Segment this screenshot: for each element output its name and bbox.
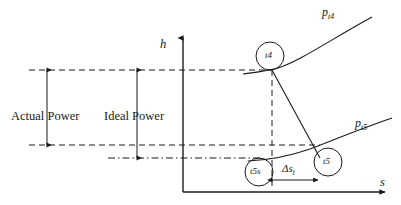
isobar-pt5-label-sub: t5 — [361, 123, 367, 132]
actual-power-label: Actual Power — [11, 110, 79, 123]
delta-s-label: Δst — [282, 163, 295, 177]
state-point-t4-label: t4 — [265, 51, 272, 60]
isobar-pt5-curve — [248, 118, 392, 161]
isobar-pt4-curve — [243, 17, 372, 74]
entropy-axis-label: s — [380, 176, 385, 189]
isobar-pt4-label-sub: t4 — [328, 12, 334, 21]
hs-diagram: Actual Power Ideal Power h s pt4 pt5 t4 … — [0, 0, 401, 205]
ideal-power-label: Ideal Power — [104, 110, 164, 123]
isobar-pt5-label: pt5 — [355, 117, 367, 132]
isobar-pt4-label: pt4 — [322, 6, 334, 21]
diagram-canvas — [0, 0, 401, 205]
enthalpy-axis-label: h — [160, 38, 166, 51]
state-point-t5s-label: t5s — [250, 167, 261, 176]
delta-s-label-base: Δs — [282, 162, 293, 174]
delta-s-label-sub: t — [293, 168, 295, 177]
state-point-t5-label: t5 — [323, 157, 330, 166]
